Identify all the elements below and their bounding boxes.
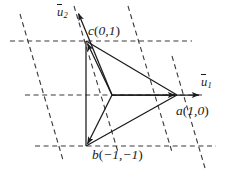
point-label-c: c(0,1) — [88, 24, 120, 38]
point-label-a-name: a — [176, 103, 183, 118]
triangle-edges — [86, 41, 177, 146]
point-label-b: b(−1,−1) — [92, 148, 143, 162]
point-label-a-coords: 1,0 — [187, 103, 204, 118]
point-label-c-coords: 0,1 — [99, 23, 116, 38]
point-label-b-coords: −1,−1 — [103, 147, 138, 162]
gridline-slanted-1 — [20, 14, 63, 160]
axis-label-u2: u2 — [57, 6, 68, 20]
axis-label-u2-subscript: 2 — [63, 10, 67, 20]
axis-label-u1-symbol: u — [201, 75, 207, 89]
vector-origin-to-b — [88, 95, 113, 144]
axis-label-u1: u1 — [201, 76, 212, 90]
point-label-a-close: ) — [204, 103, 209, 118]
point-label-a: a(1,0) — [176, 104, 209, 118]
axis-label-u2-symbol: u — [57, 5, 63, 19]
position-vectors — [88, 44, 176, 145]
point-label-b-close: ) — [138, 147, 143, 162]
point-label-b-name: b — [92, 147, 99, 162]
point-label-c-close: ) — [115, 23, 120, 38]
axis-label-u1-subscript: 1 — [207, 80, 211, 90]
